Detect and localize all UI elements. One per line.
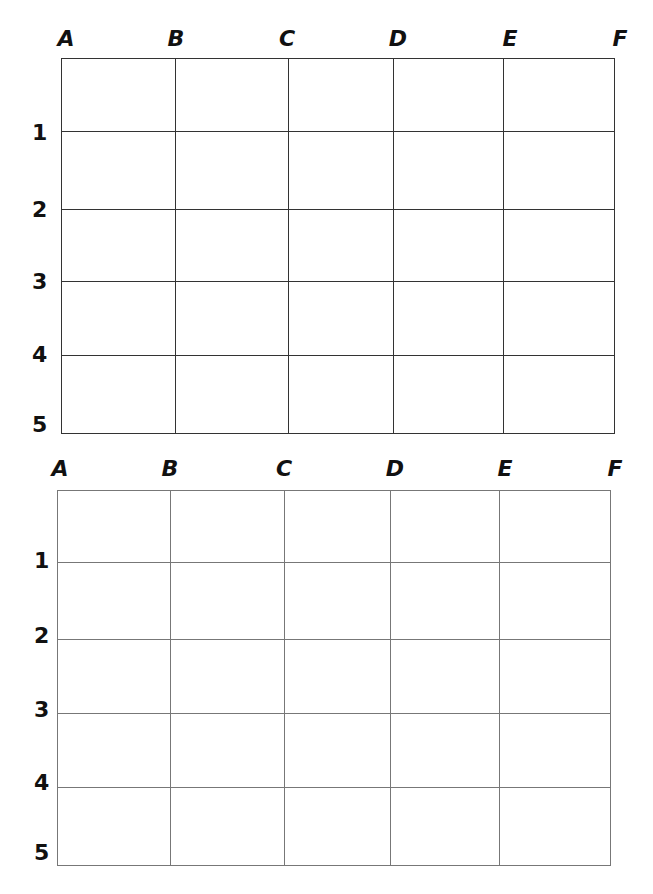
row-label: 2 (34, 625, 49, 647)
column-label: A (51, 458, 68, 480)
column-label: F (612, 28, 627, 50)
row-label: 1 (32, 122, 47, 144)
column-label: D (389, 28, 407, 50)
column-label: B (168, 28, 185, 50)
column-label: D (386, 458, 404, 480)
row-label: 5 (32, 414, 47, 436)
grid-area (57, 490, 611, 866)
row-label: 5 (34, 842, 49, 864)
column-label: B (162, 458, 179, 480)
column-label: A (57, 28, 74, 50)
row-label: 3 (32, 271, 47, 293)
column-label: F (607, 458, 622, 480)
row-label: 4 (34, 772, 49, 794)
column-label: C (276, 458, 292, 480)
coordinate-grid-top: A B C D E F 1 2 3 4 5 (0, 0, 653, 440)
coordinate-grid-bottom: A B C D E F 1 2 3 4 5 (0, 440, 653, 894)
row-label: 2 (32, 199, 47, 221)
column-label: E (502, 28, 517, 50)
column-label: E (497, 458, 512, 480)
grid-area (61, 58, 615, 434)
row-label: 4 (32, 344, 47, 366)
column-label: C (279, 28, 295, 50)
row-label: 3 (34, 699, 49, 721)
row-label: 1 (34, 550, 49, 572)
